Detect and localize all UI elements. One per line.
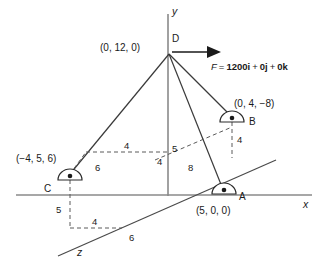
dim-c-height-5: 5: [56, 205, 61, 215]
support-a-pin: [222, 188, 227, 193]
support-c-pin: [68, 174, 73, 179]
y-axis-label: y: [172, 6, 177, 17]
force-arrow-head: [207, 46, 221, 58]
dim-base-4: 4: [92, 217, 97, 227]
dashed-axis-to-b: [155, 127, 232, 160]
dim-base-6: 6: [129, 233, 134, 243]
support-icon-b: [220, 111, 244, 122]
dim-c-horizontal-4: 4: [124, 141, 129, 151]
dim-axis-5: 5: [172, 144, 177, 154]
force-plus-1: +: [252, 61, 258, 72]
diagram-canvas: [0, 0, 324, 267]
force-j-term: 0j: [260, 61, 268, 72]
point-d-coordinates: (0, 12, 0): [100, 43, 140, 53]
support-b-pin: [230, 116, 235, 121]
axis-lines: [16, 14, 312, 256]
point-b-label: B: [249, 117, 256, 127]
z-axis-line: [58, 160, 276, 256]
force-equation: F=1200i+0j+0k: [211, 62, 288, 72]
force-equals-sign: =: [219, 61, 225, 72]
force-arrow: [172, 46, 221, 58]
point-a-label: A: [239, 192, 246, 202]
point-c-label: C: [44, 184, 51, 194]
point-b-coordinates: (0, 4, −8): [234, 99, 274, 109]
point-c-coordinates: (−4, 5, 6): [16, 154, 56, 164]
dim-axis-4: 4: [157, 157, 162, 167]
force-k-term: 0k: [277, 61, 288, 72]
force-plus-2: +: [270, 61, 276, 72]
z-axis-label: z: [77, 247, 82, 258]
force-i-term: 1200i: [226, 61, 250, 72]
dim-b-vertical-4: 4: [237, 135, 242, 145]
support-icon-c: [58, 169, 82, 180]
cable-DC: [70, 54, 169, 174]
cable-DA: [169, 54, 224, 192]
x-axis-label: x: [303, 199, 308, 210]
statics-cable-diagram: y x z (0, 12, 0) D F=1200i+0j+0k (0, 4, …: [0, 0, 324, 267]
point-d-label: D: [172, 34, 179, 44]
dim-da-8: 8: [188, 163, 193, 173]
dim-c-depth-6: 6: [95, 163, 100, 173]
support-icon-a: [212, 183, 236, 194]
force-symbol: F: [211, 61, 217, 72]
point-a-coordinates: (5, 0, 0): [196, 206, 230, 216]
